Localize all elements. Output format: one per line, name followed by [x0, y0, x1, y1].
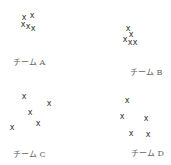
x-mark-icon: x: [133, 39, 138, 47]
x-mark-icon: x: [22, 93, 27, 101]
team-label: チーム D: [131, 149, 164, 158]
team-label: チーム C: [13, 150, 46, 159]
x-mark-icon: x: [28, 109, 33, 117]
x-mark-icon: x: [31, 25, 36, 33]
x-mark-icon: x: [47, 100, 52, 108]
team-label: チーム A: [13, 58, 45, 67]
x-mark-icon: x: [129, 130, 134, 138]
x-mark-icon: x: [125, 97, 130, 105]
x-mark-icon: x: [120, 113, 125, 121]
team-label: チーム B: [130, 68, 162, 77]
x-mark-icon: x: [144, 115, 149, 123]
x-mark-icon: x: [10, 124, 15, 132]
x-mark-icon: x: [36, 120, 41, 128]
x-mark-icon: x: [146, 131, 151, 139]
x-mark-icon: x: [30, 12, 35, 20]
